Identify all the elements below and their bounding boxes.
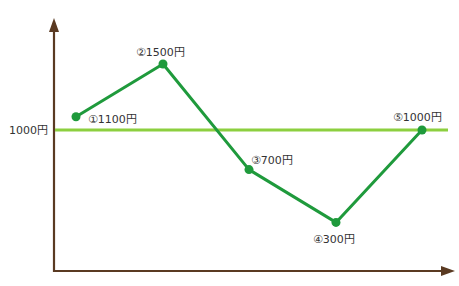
point-label-2: ②1500円 [136,46,185,59]
reference-label: 1000円 [9,124,48,137]
line-chart: 1000円 ①1100円 ②1500円 ③700円 ④300円 ⑤1000円 [0,0,459,286]
x-axis-arrow-icon [441,266,455,276]
data-point-1 [72,112,81,121]
axes [49,18,455,276]
series-line [76,64,422,222]
data-points [72,60,427,227]
point-label-1: ①1100円 [88,113,137,126]
point-label-4: ④300円 [313,233,355,246]
data-point-4 [332,218,341,227]
point-label-5: ⑤1000円 [393,111,442,124]
data-point-2 [159,60,168,69]
point-label-3: ③700円 [251,154,293,167]
data-point-5 [418,126,427,135]
y-axis-arrow-icon [49,18,59,32]
